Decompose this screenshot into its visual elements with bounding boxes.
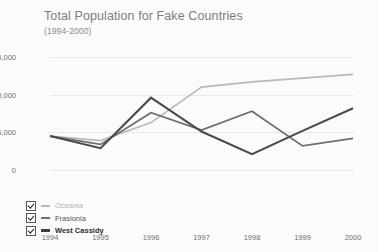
x-axis-tick-label: 1996: [143, 233, 160, 242]
legend-checkbox-checked-icon[interactable]: [26, 226, 36, 236]
legend-color-swatch: [41, 217, 50, 219]
series-lines: [50, 57, 353, 170]
legend-item-label: West Cassidy: [55, 226, 104, 235]
x-axis-tick-label: 1997: [193, 233, 210, 242]
legend-color-swatch: [41, 205, 50, 207]
legend-checkbox-checked-icon[interactable]: [26, 213, 36, 223]
chart-container: Total Population for Fake Countries (199…: [0, 0, 378, 252]
y-axis-tick-label: 5,000: [0, 128, 16, 137]
legend-item[interactable]: West Cassidy: [26, 225, 104, 237]
legend-item-label: Frasionia: [55, 214, 86, 223]
legend-item-label: Oceania: [55, 201, 83, 210]
plot-area: 05,00010,00015,000 199419951996199719981…: [50, 57, 353, 170]
chart-subtitle: (1994-2000): [44, 26, 91, 36]
legend-item[interactable]: Frasionia: [26, 213, 104, 225]
x-axis-tick-label: 1998: [244, 233, 261, 242]
legend-color-swatch: [41, 229, 50, 232]
legend-checkbox-checked-icon[interactable]: [26, 201, 36, 211]
y-axis-tick-label: 0: [12, 166, 16, 175]
chart-title: Total Population for Fake Countries: [44, 9, 243, 23]
y-axis-tick-label: 15,000: [0, 53, 16, 62]
x-axis-tick-label: 1999: [294, 233, 311, 242]
gridline: [50, 170, 353, 171]
x-axis-tick-label: 2000: [345, 233, 362, 242]
y-axis-tick-label: 10,000: [0, 90, 16, 99]
legend-item[interactable]: Oceania: [26, 200, 104, 212]
chart-legend: OceaniaFrasioniaWest Cassidy: [26, 200, 104, 238]
